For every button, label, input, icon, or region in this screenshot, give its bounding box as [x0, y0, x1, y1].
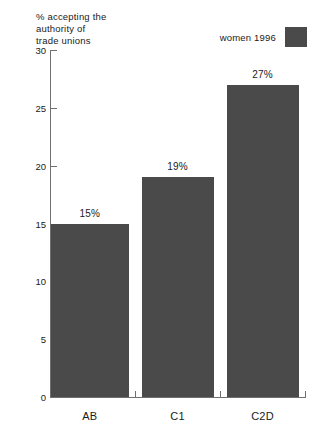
y-axis-tick-label: 25 [24, 102, 46, 113]
y-axis-tick-label: 30 [24, 45, 46, 56]
y-axis-tick [51, 397, 57, 398]
bar-c2d [227, 85, 299, 397]
bar-value-label-c1: 19% [167, 161, 187, 172]
y-axis-tick-label: 0 [24, 392, 46, 403]
bar-ab [51, 224, 129, 398]
x-axis-tick [135, 391, 136, 398]
y-axis-tick-label: 20 [24, 160, 46, 171]
plot-area: 05101520253015%AB19%C127%C2D [0, 0, 322, 435]
y-axis-tick [51, 166, 57, 167]
y-axis-tick-label: 10 [24, 276, 46, 287]
y-axis-tick [51, 50, 57, 51]
x-axis-category-label-c1: C1 [170, 410, 185, 422]
bar-value-label-c2d: 27% [252, 69, 272, 80]
x-axis-tick [305, 391, 306, 398]
y-axis-tick [51, 108, 57, 109]
x-axis-category-label-ab: AB [82, 410, 97, 422]
y-axis-tick-label: 15 [24, 218, 46, 229]
bar-value-label-ab: 15% [80, 208, 100, 219]
x-axis-category-label-c2d: C2D [251, 410, 274, 422]
bar-c1 [142, 177, 214, 397]
bar-chart: % accepting the authority of trade union… [0, 0, 322, 435]
x-axis-tick [220, 391, 221, 398]
x-axis-line [50, 397, 306, 398]
y-axis-tick-label: 5 [24, 334, 46, 345]
